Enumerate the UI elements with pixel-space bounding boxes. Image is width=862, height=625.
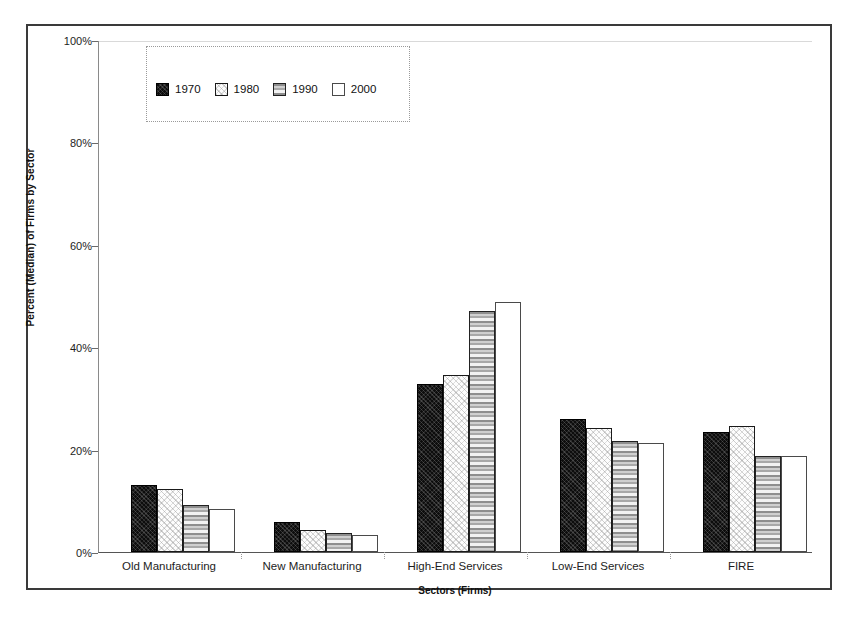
legend-swatch-1980-icon bbox=[215, 83, 228, 96]
legend-swatch-1990-icon bbox=[273, 83, 286, 96]
bar-high-end-services-2000[interactable] bbox=[495, 302, 521, 552]
bar-fire-2000[interactable] bbox=[781, 456, 807, 552]
bar-high-end-services-1970[interactable] bbox=[417, 384, 443, 552]
x-separator-3 bbox=[527, 552, 528, 559]
bar-new-manufacturing-1980[interactable] bbox=[300, 530, 326, 552]
xtick-label-old-manufacturing: Old Manufacturing bbox=[98, 560, 240, 572]
xtick-label-fire: FIRE bbox=[670, 560, 812, 572]
legend-label-1980: 1980 bbox=[234, 83, 260, 96]
x-separator-2 bbox=[384, 552, 385, 559]
bar-old-manufacturing-1970[interactable] bbox=[131, 485, 157, 552]
legend-label-2000: 2000 bbox=[351, 83, 377, 96]
xtick-label-low-end-services: Low-End Services bbox=[527, 560, 669, 572]
bar-old-manufacturing-2000[interactable] bbox=[209, 509, 235, 552]
ytick-label-100: 100% bbox=[36, 36, 92, 47]
bar-low-end-services-1970[interactable] bbox=[560, 419, 586, 552]
x-axis-title: Sectors (Firms) bbox=[98, 585, 812, 596]
ytick-label-20: 20% bbox=[36, 446, 92, 457]
ytick-label-0: 0% bbox=[36, 548, 92, 559]
ytick-label-40: 40% bbox=[36, 343, 92, 354]
bar-low-end-services-1990[interactable] bbox=[612, 441, 638, 552]
legend-label-1990: 1990 bbox=[292, 83, 318, 96]
bar-new-manufacturing-2000[interactable] bbox=[352, 535, 378, 552]
legend: 1970 1980 1990 2000 bbox=[146, 46, 410, 122]
y-axis-title: Percent (Median) of Firms by Sector bbox=[25, 58, 36, 418]
bar-old-manufacturing-1980[interactable] bbox=[157, 489, 183, 552]
legend-row: 1970 1980 1990 2000 bbox=[156, 83, 390, 96]
bar-low-end-services-2000[interactable] bbox=[638, 443, 664, 552]
bar-high-end-services-1980[interactable] bbox=[443, 375, 469, 552]
bar-new-manufacturing-1990[interactable] bbox=[326, 533, 352, 552]
legend-item-1980[interactable]: 1980 bbox=[215, 83, 260, 96]
bar-low-end-services-1980[interactable] bbox=[586, 428, 612, 552]
legend-item-1970[interactable]: 1970 bbox=[156, 83, 201, 96]
bar-fire-1990[interactable] bbox=[755, 456, 781, 552]
bar-fire-1970[interactable] bbox=[703, 432, 729, 552]
bar-old-manufacturing-1990[interactable] bbox=[183, 505, 209, 552]
xtick-label-new-manufacturing: New Manufacturing bbox=[241, 560, 383, 572]
bar-high-end-services-1990[interactable] bbox=[469, 311, 495, 552]
legend-label-1970: 1970 bbox=[175, 83, 201, 96]
legend-item-1990[interactable]: 1990 bbox=[273, 83, 318, 96]
ytick-label-80: 80% bbox=[36, 138, 92, 149]
ytick-label-60: 60% bbox=[36, 241, 92, 252]
xtick-label-high-end-services: High-End Services bbox=[384, 560, 526, 572]
chart-page: 100% 80% 60% 40% 20% 0% Percent (Median)… bbox=[0, 0, 862, 625]
bar-new-manufacturing-1970[interactable] bbox=[274, 522, 300, 552]
legend-item-2000[interactable]: 2000 bbox=[332, 83, 377, 96]
bar-fire-1980[interactable] bbox=[729, 426, 755, 552]
x-separator-1 bbox=[241, 552, 242, 559]
ytick-mark-0 bbox=[92, 553, 98, 554]
legend-swatch-2000-icon bbox=[332, 83, 345, 96]
legend-swatch-1970-icon bbox=[156, 83, 169, 96]
x-separator-4 bbox=[670, 552, 671, 559]
